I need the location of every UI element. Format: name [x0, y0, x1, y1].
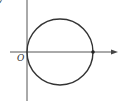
y-axis-label: y	[0, 0, 3, 4]
x-axis-arrow-icon	[111, 50, 118, 55]
coordinate-plane	[0, 0, 122, 101]
origin-label: O	[17, 54, 24, 63]
marked-point	[91, 50, 95, 54]
